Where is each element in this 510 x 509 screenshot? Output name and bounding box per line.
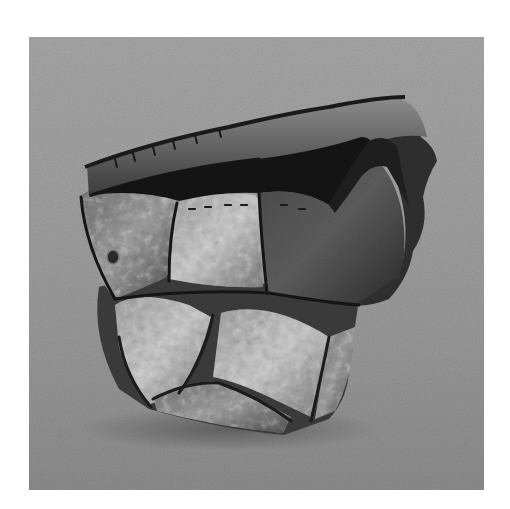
- artwork-photograph: [29, 37, 484, 490]
- vessel-illustration: [29, 37, 484, 490]
- upper-center-panel: [169, 194, 265, 287]
- surface-hole: [107, 250, 119, 264]
